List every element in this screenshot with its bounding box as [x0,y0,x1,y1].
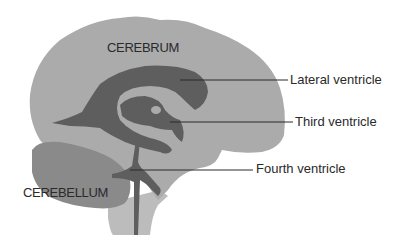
cerebrum-label: CEREBRUM [107,41,179,54]
third-ventricle-label: Third ventricle [295,115,377,128]
interthalamic-adhesion [151,106,161,114]
lateral-ventricle-label: Lateral ventricle [290,73,382,86]
cerebellum-label: CEREBELLUM [23,186,108,199]
fourth-ventricle-label: Fourth ventricle [256,162,346,175]
